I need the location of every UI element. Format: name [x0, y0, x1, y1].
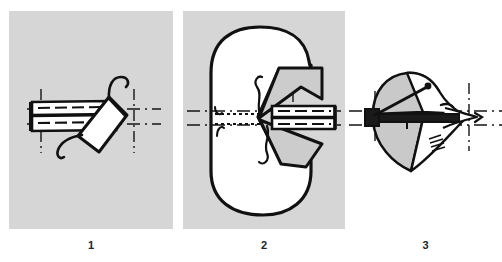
hook-curl-upper	[109, 77, 128, 99]
panel-2-shaft-assembly	[272, 106, 335, 129]
figure-panel-1	[9, 11, 173, 229]
hook-curl-lower	[57, 135, 82, 158]
figure-board: 1 2 3	[0, 0, 502, 262]
panel-2-drawing	[183, 11, 345, 229]
figure-panel-2	[183, 11, 345, 229]
strut-pivot	[425, 83, 432, 90]
panel-2-caption: 2	[183, 238, 345, 252]
panel-1-drawing	[9, 11, 173, 229]
figure-panel-3	[349, 11, 502, 229]
horizontal-shaft	[367, 114, 459, 122]
panel-3-caption: 3	[349, 238, 502, 252]
panel-3-drawing	[349, 11, 502, 229]
panel-1-caption: 1	[9, 238, 173, 252]
shaft-left-block	[365, 109, 379, 126]
